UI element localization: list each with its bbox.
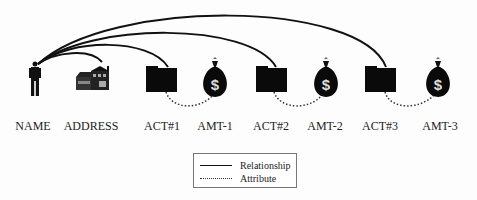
svg-text:$: $	[211, 76, 220, 93]
diagram-canvas: $ $ $ NAME ADDRESS ACT#1 AMT-1 ACT#2 AMT…	[0, 0, 477, 200]
node-label-act3: ACT#3	[362, 119, 398, 134]
person-icon	[29, 62, 41, 97]
node-label-address: ADDRESS	[64, 119, 119, 134]
node-label-amt3: AMT-3	[422, 119, 458, 134]
node-label-name: NAME	[15, 119, 50, 134]
node-label-act2: ACT#2	[253, 119, 289, 134]
svg-text:$: $	[322, 76, 331, 93]
svg-text:$: $	[434, 76, 443, 93]
folder-icon-act2	[256, 66, 287, 92]
node-label-amt1: AMT-1	[197, 119, 233, 134]
folder-icon-act1	[146, 66, 177, 92]
node-label-act1: ACT#1	[144, 119, 180, 134]
money-bag-icon-amt2: $	[314, 57, 338, 97]
edge-act1-amt1	[166, 92, 213, 106]
edge-act3-amt3	[385, 92, 434, 106]
legend-item-relationship: Relationship	[200, 160, 291, 171]
legend-label-relationship: Relationship	[240, 160, 291, 171]
legend: Relationship Attribute	[193, 153, 297, 188]
relationship-edges	[38, 16, 386, 67]
money-bag-icon-amt3: $	[426, 57, 450, 97]
legend-item-attribute: Attribute	[200, 173, 276, 184]
node-label-amt2: AMT-2	[307, 119, 343, 134]
edge-name-act2	[38, 33, 276, 67]
money-bag-icon-amt1: $	[203, 57, 227, 97]
legend-label-attribute: Attribute	[240, 173, 276, 184]
folder-icon-act3	[365, 66, 396, 92]
house-icon	[76, 66, 109, 90]
dotted-line-icon	[200, 178, 232, 179]
edge-act2-amt2	[274, 92, 322, 106]
solid-line-icon	[200, 165, 232, 166]
attribute-edges	[166, 92, 434, 106]
